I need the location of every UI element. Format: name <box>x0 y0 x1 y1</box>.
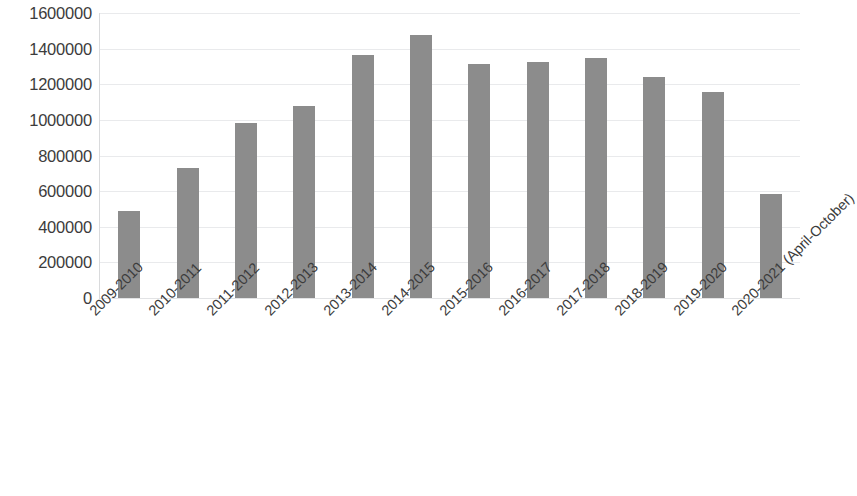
y-tick-label: 200000 <box>0 254 92 271</box>
y-tick-label: 600000 <box>0 183 92 200</box>
y-tick-label: 1600000 <box>0 5 92 22</box>
y-tick-label: 800000 <box>0 148 92 165</box>
plot-area <box>100 13 800 298</box>
y-axis-line <box>99 13 100 299</box>
y-tick-label: 1000000 <box>0 112 92 129</box>
y-axis: 1600000140000012000001000000800000600000… <box>0 0 92 310</box>
y-tick-label: 400000 <box>0 219 92 236</box>
y-tick-label: 1400000 <box>0 41 92 58</box>
bars-layer <box>100 13 800 298</box>
bar <box>410 35 432 298</box>
y-tick-label: 0 <box>0 290 92 307</box>
y-tick-label: 1200000 <box>0 76 92 93</box>
x-axis: 2009-20102010-20112011-20122012-20132013… <box>100 298 804 496</box>
